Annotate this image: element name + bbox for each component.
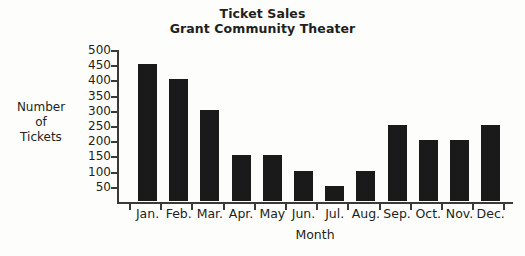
chart-title-line-2: Grant Community Theater <box>0 21 525 36</box>
y-axis-tick <box>111 50 117 52</box>
x-axis-tick-labels: Jan.Feb.Mar.Apr.MayJun.Jul.Aug.Sep.Oct.N… <box>117 207 517 223</box>
y-axis-tick <box>111 187 117 189</box>
y-axis-tick-label: 50 <box>77 181 111 193</box>
chart-figure: Ticket Sales Grant Community Theater Num… <box>0 0 525 256</box>
y-axis-tick-label: 450 <box>77 59 111 71</box>
bar <box>325 186 344 201</box>
y-axis-tick-label: 200 <box>77 135 111 147</box>
y-axis-title-line-3: Tickets <box>8 130 74 145</box>
plot-area <box>117 50 513 203</box>
y-axis-tick <box>111 96 117 98</box>
bar <box>419 140 438 201</box>
y-axis-title: Number of Tickets <box>8 100 74 145</box>
bar <box>481 125 500 201</box>
y-axis-tick <box>111 141 117 143</box>
y-axis-tick <box>111 65 117 67</box>
y-axis-tick <box>111 80 117 82</box>
bar <box>232 155 251 201</box>
bar <box>138 64 157 201</box>
chart-title-line-1: Ticket Sales <box>0 6 525 21</box>
bar <box>388 125 407 201</box>
y-axis-title-line-1: Number <box>8 100 74 115</box>
bar <box>294 171 313 201</box>
y-axis-title-line-2: of <box>8 115 74 130</box>
y-axis-tick-label: 500 <box>77 44 111 56</box>
y-axis-tick-label: 350 <box>77 90 111 102</box>
y-axis-tick <box>111 126 117 128</box>
chart-title: Ticket Sales Grant Community Theater <box>0 6 525 36</box>
bar <box>356 171 375 201</box>
y-axis-tick-label: 100 <box>77 166 111 178</box>
bar <box>450 140 469 201</box>
y-axis-tick-labels: 50045040035030025020015010050 <box>77 50 111 203</box>
x-axis-line <box>117 202 513 204</box>
y-axis-tick <box>111 111 117 113</box>
bar <box>169 79 188 201</box>
bar <box>263 155 282 201</box>
y-axis-tick <box>111 172 117 174</box>
x-axis-tick-label: Dec. <box>471 207 511 221</box>
y-axis-tick-label: 400 <box>77 74 111 86</box>
y-axis-tick-label: 250 <box>77 120 111 132</box>
y-axis-tick-label: 150 <box>77 150 111 162</box>
y-axis-tick-label: 300 <box>77 105 111 117</box>
y-axis-line <box>117 50 119 204</box>
bar <box>200 110 219 201</box>
x-axis-title: Month <box>117 227 513 242</box>
y-axis-tick <box>111 156 117 158</box>
